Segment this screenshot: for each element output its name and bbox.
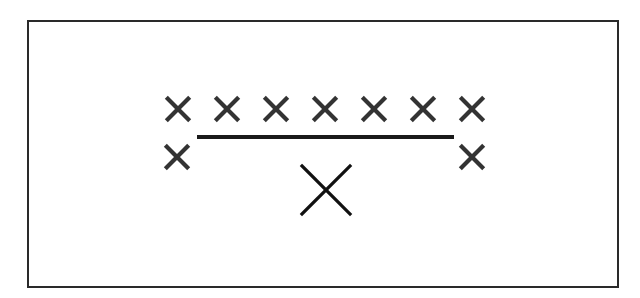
x-mark-right xyxy=(462,147,482,167)
x-mark-left xyxy=(167,147,187,167)
x-mark-top-6 xyxy=(413,99,433,119)
x-mark-top-1 xyxy=(168,99,188,119)
diagram-figure xyxy=(0,0,640,298)
x-mark-top-2 xyxy=(217,99,237,119)
x-mark-top-3 xyxy=(266,99,286,119)
x-mark-top-4 xyxy=(315,99,335,119)
center-large-x-mark xyxy=(302,166,350,214)
x-mark-top-5 xyxy=(364,99,384,119)
diagram-canvas xyxy=(0,0,640,298)
side-marks xyxy=(167,147,482,167)
top-row-marks xyxy=(168,99,482,119)
x-mark-top-7 xyxy=(462,99,482,119)
x-mark-large xyxy=(302,166,350,214)
